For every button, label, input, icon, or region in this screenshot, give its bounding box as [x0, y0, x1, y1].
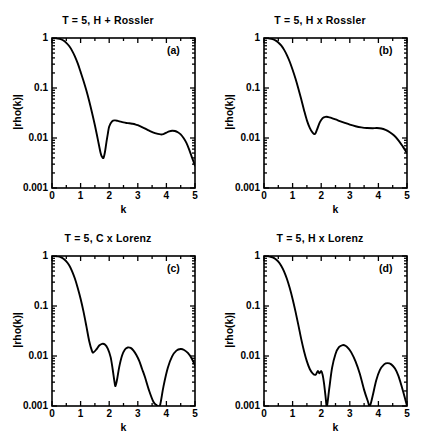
x-tick-label: 1 [71, 190, 91, 201]
axis-ticks [52, 256, 195, 406]
y-tick-label: 0.1 [212, 82, 260, 93]
axes-frame [264, 38, 407, 188]
y-tick-label: 0.001 [0, 182, 48, 193]
axis-ticks [264, 38, 407, 188]
x-axis-label: k [326, 421, 346, 433]
y-tick-label: 0.1 [212, 300, 260, 311]
x-tick-label: 5 [185, 408, 205, 419]
chart-panel-b: T = 5, H x Rossler(b)10.10.010.001012345… [212, 0, 428, 223]
y-tick-label: 0.001 [212, 400, 260, 411]
y-axis-label: |rho(k)| [11, 77, 23, 147]
chart-panel-a: T = 5, H + Rossler(a)10.10.010.001012345… [0, 0, 216, 223]
x-tick-label: 1 [71, 408, 91, 419]
y-tick-label: 0.01 [212, 132, 260, 143]
x-tick-label: 5 [397, 408, 417, 419]
data-curve-a [52, 38, 195, 166]
y-tick-label: 0.01 [212, 350, 260, 361]
y-tick-label: 0.001 [0, 400, 48, 411]
x-tick-label: 0 [254, 408, 274, 419]
x-tick-label: 5 [185, 190, 205, 201]
axis-ticks [264, 256, 407, 406]
axes-frame [52, 38, 195, 188]
chart-panel-d: T = 5, H x Lorenz(d)10.10.010.001012345k… [212, 218, 428, 441]
x-tick-label: 3 [128, 408, 148, 419]
x-tick-label: 4 [156, 408, 176, 419]
y-axis-label: |rho(k)| [11, 295, 23, 365]
axis-ticks [52, 38, 195, 188]
x-tick-label: 3 [340, 408, 360, 419]
y-tick-label: 0.1 [0, 300, 48, 311]
y-tick-label: 0.01 [0, 132, 48, 143]
x-tick-label: 5 [397, 190, 417, 201]
axes-frame [264, 256, 407, 406]
x-tick-label: 1 [283, 408, 303, 419]
figure-panel-grid: T = 5, H + Rossler(a)10.10.010.001012345… [0, 0, 433, 447]
x-tick-label: 1 [283, 190, 303, 201]
panel-tag-d: (d) [379, 262, 392, 274]
x-tick-label: 4 [156, 190, 176, 201]
y-tick-label: 0.1 [0, 82, 48, 93]
y-tick-label: 0.001 [212, 182, 260, 193]
y-tick-label: 0.01 [0, 350, 48, 361]
panel-tag-b: (b) [379, 44, 392, 56]
axes-frame [52, 256, 195, 406]
y-tick-label: 1 [0, 32, 48, 43]
x-tick-label: 3 [128, 190, 148, 201]
x-tick-label: 0 [42, 190, 62, 201]
panel-tag-a: (a) [167, 44, 180, 56]
x-tick-label: 0 [254, 190, 274, 201]
x-axis-label: k [326, 203, 346, 215]
y-axis-label: |rho(k)| [223, 77, 235, 147]
x-tick-label: 2 [311, 408, 331, 419]
x-tick-label: 2 [99, 190, 119, 201]
x-tick-label: 2 [99, 408, 119, 419]
y-tick-label: 1 [212, 250, 260, 261]
x-axis-label: k [114, 421, 134, 433]
y-axis-label: |rho(k)| [223, 295, 235, 365]
y-tick-label: 1 [212, 32, 260, 43]
x-tick-label: 0 [42, 408, 62, 419]
data-curve-c [52, 256, 195, 407]
x-tick-label: 3 [340, 190, 360, 201]
x-tick-label: 4 [368, 408, 388, 419]
chart-panel-c: T = 5, C x Lorenz(c)10.10.010.001012345k… [0, 218, 216, 441]
data-curve-d [264, 256, 407, 406]
panel-tag-c: (c) [167, 262, 180, 274]
x-tick-label: 4 [368, 190, 388, 201]
y-tick-label: 1 [0, 250, 48, 261]
x-axis-label: k [114, 203, 134, 215]
x-tick-label: 2 [311, 190, 331, 201]
